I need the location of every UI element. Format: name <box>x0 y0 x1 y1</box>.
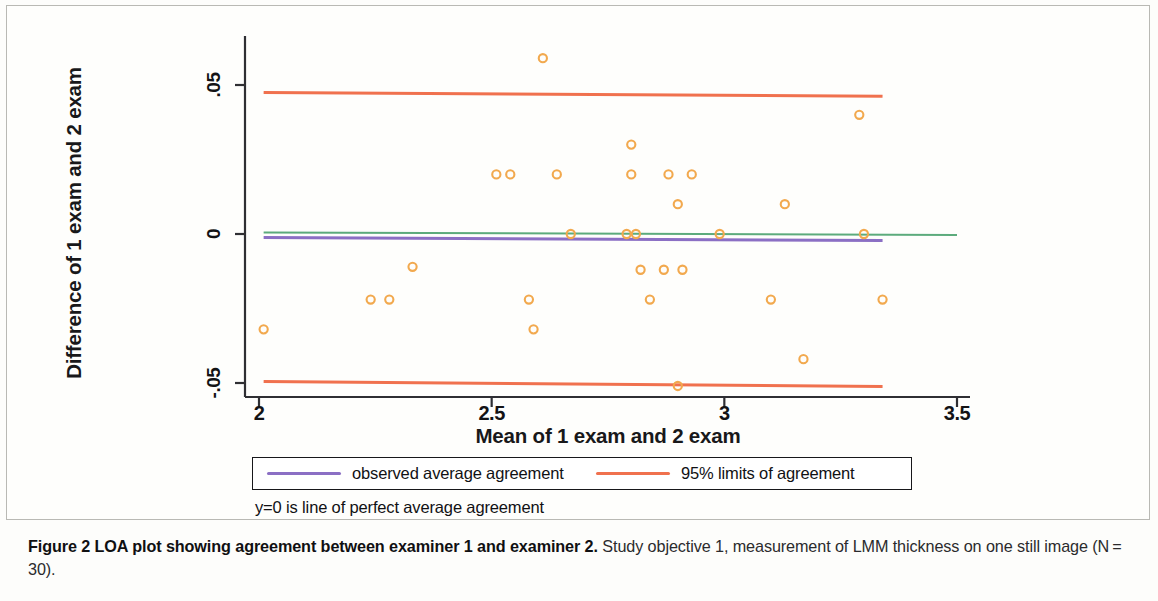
legend-note: y=0 is line of perfect average agreement <box>255 498 544 517</box>
figure-caption: Figure 2 LOA plot showing agreement betw… <box>28 535 1138 581</box>
data-point <box>553 170 561 178</box>
data-point <box>539 54 547 62</box>
data-point <box>636 266 644 274</box>
reference-lines-group <box>264 92 957 386</box>
upper-limit-of-agreement <box>264 92 883 96</box>
x-axis-title: Mean of 1 exam and 2 exam <box>259 424 957 448</box>
caption-title: Figure 2 LOA plot showing agreement betw… <box>28 537 598 555</box>
data-point <box>260 325 268 333</box>
data-point <box>506 170 514 178</box>
data-point <box>627 141 635 149</box>
x-tick-label: 2.5 <box>479 402 505 425</box>
data-point <box>855 111 863 119</box>
x-tick-label: 3 <box>719 402 730 425</box>
figure-page: Difference of 1 exam and 2 exam Mean of … <box>0 0 1158 601</box>
legend-label-loa: 95% limits of agreement <box>681 464 855 483</box>
zero-line <box>264 233 957 235</box>
data-point <box>678 266 686 274</box>
data-point <box>367 295 375 303</box>
plot-area: Difference of 1 exam and 2 exam Mean of … <box>7 6 1151 521</box>
data-point <box>646 295 654 303</box>
y-tick-label: 0 <box>203 217 225 251</box>
x-tick-label: 3.5 <box>944 402 970 425</box>
data-point <box>525 295 533 303</box>
plot-legend: observed average agreement 95% limits of… <box>252 457 912 490</box>
legend-label-observed: observed average agreement <box>352 464 564 483</box>
y-axis-title: Difference of 1 exam and 2 exam <box>62 23 86 423</box>
figure-panel: Difference of 1 exam and 2 exam Mean of … <box>6 5 1150 520</box>
data-point <box>878 295 886 303</box>
data-point <box>529 325 537 333</box>
legend-swatch-observed-line <box>267 472 341 475</box>
lower-limit-of-agreement <box>264 382 883 387</box>
data-point <box>385 295 393 303</box>
data-point <box>781 200 789 208</box>
data-point <box>627 170 635 178</box>
data-point <box>492 170 500 178</box>
data-point <box>767 295 775 303</box>
data-point <box>688 170 696 178</box>
y-tick-label: .05 <box>203 68 225 102</box>
x-tick-label: 2 <box>254 402 265 425</box>
legend-entry-observed-average: observed average agreement <box>253 458 582 489</box>
legend-entry-limits-of-agreement: 95% limits of agreement <box>582 458 911 489</box>
data-point <box>408 263 416 271</box>
data-point <box>799 355 807 363</box>
legend-swatch-loa-line <box>596 472 670 475</box>
y-tick-label: -.05 <box>203 366 225 400</box>
data-point <box>660 266 668 274</box>
data-point <box>674 200 682 208</box>
data-points-group <box>260 54 887 390</box>
data-point <box>664 170 672 178</box>
